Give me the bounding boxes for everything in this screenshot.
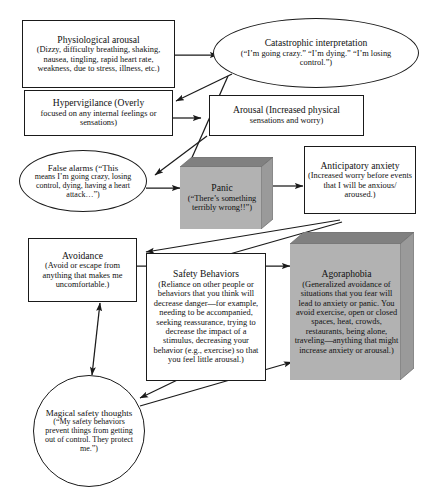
node-body: sensations and worry) [213,116,360,125]
node-body: (Avoid or escape from anything that make… [32,261,133,289]
node-body: (“I’m going crazy.” “I’m dying.” “I’m lo… [234,49,398,68]
node-physiological-arousal[interactable]: Physiological arousal (Dizzy, difficulty… [22,20,175,88]
node-body: (Increased worry before events that I wi… [308,171,412,199]
node-body: (Dizzy, difficulty breathing, shaking, n… [26,45,171,73]
node-body: (Generalized avoidance of situations tha… [293,280,400,355]
node-title: Anticipatory anxiety [308,161,412,172]
node-title: Panic [183,183,261,194]
node-title: Catastrophic interpretation [234,38,398,49]
node-avoidance[interactable]: Avoidance (Avoid or escape from anything… [28,238,137,302]
node-title: Avoidance [32,251,133,262]
node-safety-behaviors[interactable]: Safety Behaviors (Reliance on other peop… [146,253,266,381]
node-anticipatory-anxiety[interactable]: Anticipatory anxiety (Increased worry be… [304,146,416,214]
node-panic[interactable]: Panic (“There’s something terribly wrong… [180,157,273,229]
node-body: means I’m going crazy, losing control, d… [29,173,137,200]
node-arousal[interactable]: Arousal (Increased physical sensations a… [209,95,364,136]
node-title: Physiological arousal [26,35,171,46]
node-agoraphobia[interactable]: Agoraphobia (Generalized avoidance of si… [290,232,414,380]
node-false-alarms[interactable]: False alarms (“This means I’m going craz… [19,150,147,212]
node-hypervigilance[interactable]: Hypervigilance (Overly focused on any in… [24,90,173,136]
edge-avoidance-magical-safety-double [92,303,100,375]
node-body: focused on any internal feelings or sens… [28,109,169,128]
node-body: (Reliance on other people or behaviors t… [150,280,262,365]
node-title: Agoraphobia [293,269,400,280]
node-title: Arousal (Increased physical [213,105,360,116]
node-title: Hypervigilance (Overly [28,98,169,109]
node-title: Safety Behaviors [150,269,262,280]
node-body: (“My safety behaviors prevent things fro… [42,418,136,454]
node-body: (“There’s something terribly wrong!!”) [183,194,261,213]
node-magical-safety-thoughts[interactable]: Magical safety thoughts (“My safety beha… [33,375,145,487]
diagram-canvas: Physiological arousal (Dizzy, difficulty… [0,0,428,494]
node-catastrophic-interpretation[interactable]: Catastrophic interpretation (“I’m going … [213,18,419,88]
